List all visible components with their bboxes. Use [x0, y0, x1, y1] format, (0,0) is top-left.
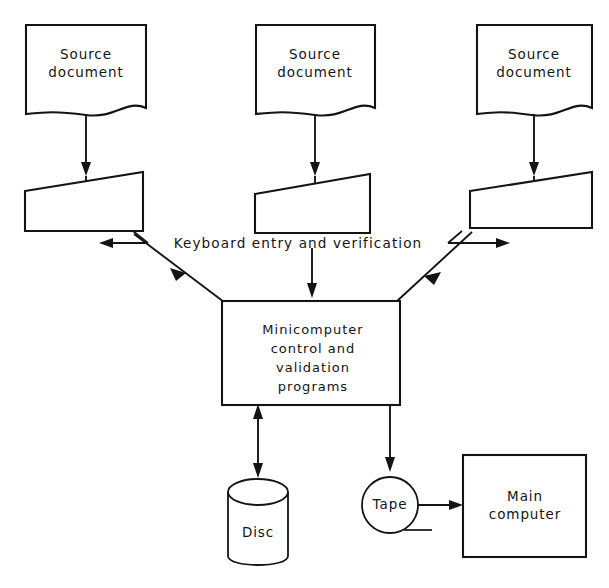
data-entry-system-flowchart: Source document Source document Source d… — [0, 0, 609, 588]
disc-cylinder-top — [228, 479, 288, 505]
source-document-node-3[interactable]: Source document — [477, 25, 592, 116]
source-document-label-3-line1: Source — [508, 46, 560, 62]
edge-tape-to-main-computer — [418, 500, 463, 510]
keyboard-trapezoid-shape — [470, 172, 592, 228]
source-document-label-1-line1: Source — [60, 46, 112, 62]
main-computer-node[interactable]: Main computer — [463, 455, 586, 557]
edge-minicomputer-to-disc — [253, 404, 263, 478]
edge-keystation2-to-minicomputer — [307, 248, 317, 298]
minicomputer-label-line3: validation — [276, 360, 350, 375]
key-station-node-1[interactable] — [25, 172, 143, 231]
source-document-node-2[interactable]: Source document — [256, 25, 375, 116]
edge-minicomputer-to-tape — [385, 406, 395, 472]
disc-node[interactable]: Disc — [228, 479, 288, 565]
keyboard-entry-label: Keyboard entry and verification — [174, 235, 423, 251]
tape-label: Tape — [372, 496, 408, 512]
main-computer-label-line2: computer — [489, 506, 561, 522]
main-computer-label-line1: Main — [507, 488, 543, 504]
minicomputer-label-line2: control and — [271, 341, 356, 356]
key-station-node-2[interactable] — [255, 174, 370, 233]
keyboard-trapezoid-shape — [25, 172, 143, 231]
source-document-label-3-line2: document — [496, 64, 571, 80]
source-document-label-2-line1: Source — [289, 46, 341, 62]
disc-label: Disc — [242, 524, 274, 540]
minicomputer-label-line4: programs — [278, 379, 348, 394]
source-document-label-1-line2: document — [48, 64, 123, 80]
diagram-canvas: Source document Source document Source d… — [0, 0, 609, 588]
key-station-node-3[interactable] — [470, 172, 592, 228]
keyboard-trapezoid-shape — [255, 174, 370, 233]
minicomputer-label-line1: Minicomputer — [262, 322, 363, 337]
source-document-label-2-line2: document — [277, 64, 352, 80]
source-document-node-1[interactable]: Source document — [26, 25, 146, 116]
minicomputer-node[interactable]: Minicomputer control and validation prog… — [222, 301, 400, 405]
